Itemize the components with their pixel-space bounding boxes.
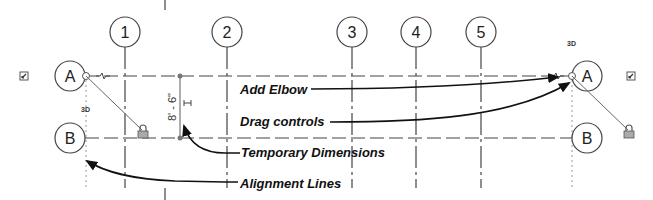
show-bubble-checkbox-right[interactable]	[627, 72, 635, 80]
temporary-dimension[interactable]: 8' - 6"	[166, 74, 191, 141]
add-elbow-icon-left[interactable]	[96, 73, 110, 79]
row-label: A	[582, 68, 593, 85]
column-label: 4	[412, 24, 421, 41]
lock-icon-left[interactable]	[138, 125, 148, 138]
row-label: B	[65, 130, 76, 147]
callout-arrows	[87, 77, 569, 182]
row-bubble-b-right[interactable]: B	[572, 123, 602, 153]
callout-add-elbow: Add Elbow	[239, 82, 308, 97]
column-label: 2	[223, 24, 232, 41]
row-label: B	[582, 130, 593, 147]
column-label: 5	[477, 24, 486, 41]
lock-connector-left	[86, 76, 142, 130]
column-bubble-3[interactable]: 3	[337, 17, 367, 47]
lock-icon-right[interactable]	[624, 125, 634, 138]
dimension-toggle-icon	[184, 100, 191, 106]
3d-extent-toggle-right[interactable]: 3D	[567, 40, 576, 47]
3d-extent-toggle-left[interactable]: 3D	[81, 106, 90, 113]
column-bubble-2[interactable]: 2	[212, 17, 242, 47]
row-bubble-a-left[interactable]: A	[55, 61, 85, 91]
grid-diagram: 1 2 3 4 5 A B A B	[0, 0, 653, 200]
column-label: 1	[121, 24, 130, 41]
callout-temporary-dimensions: Temporary Dimensions	[241, 145, 385, 160]
dimension-value[interactable]: 8' - 6"	[166, 93, 178, 121]
column-bubble-1[interactable]: 1	[110, 17, 140, 47]
show-bubble-checkbox-left[interactable]	[20, 72, 28, 80]
row-label: A	[65, 68, 76, 85]
row-bubble-a-right[interactable]: A	[572, 61, 602, 91]
callout-drag-controls: Drag controls	[240, 114, 325, 129]
alignment-lines[interactable]	[86, 80, 572, 188]
row-bubble-b-left[interactable]: B	[55, 123, 85, 153]
row-grid-lines	[85, 76, 573, 138]
column-bubble-4[interactable]: 4	[401, 17, 431, 47]
callout-alignment-lines: Alignment Lines	[239, 176, 341, 191]
column-bubble-5[interactable]: 5	[466, 17, 496, 47]
column-label: 3	[348, 24, 357, 41]
